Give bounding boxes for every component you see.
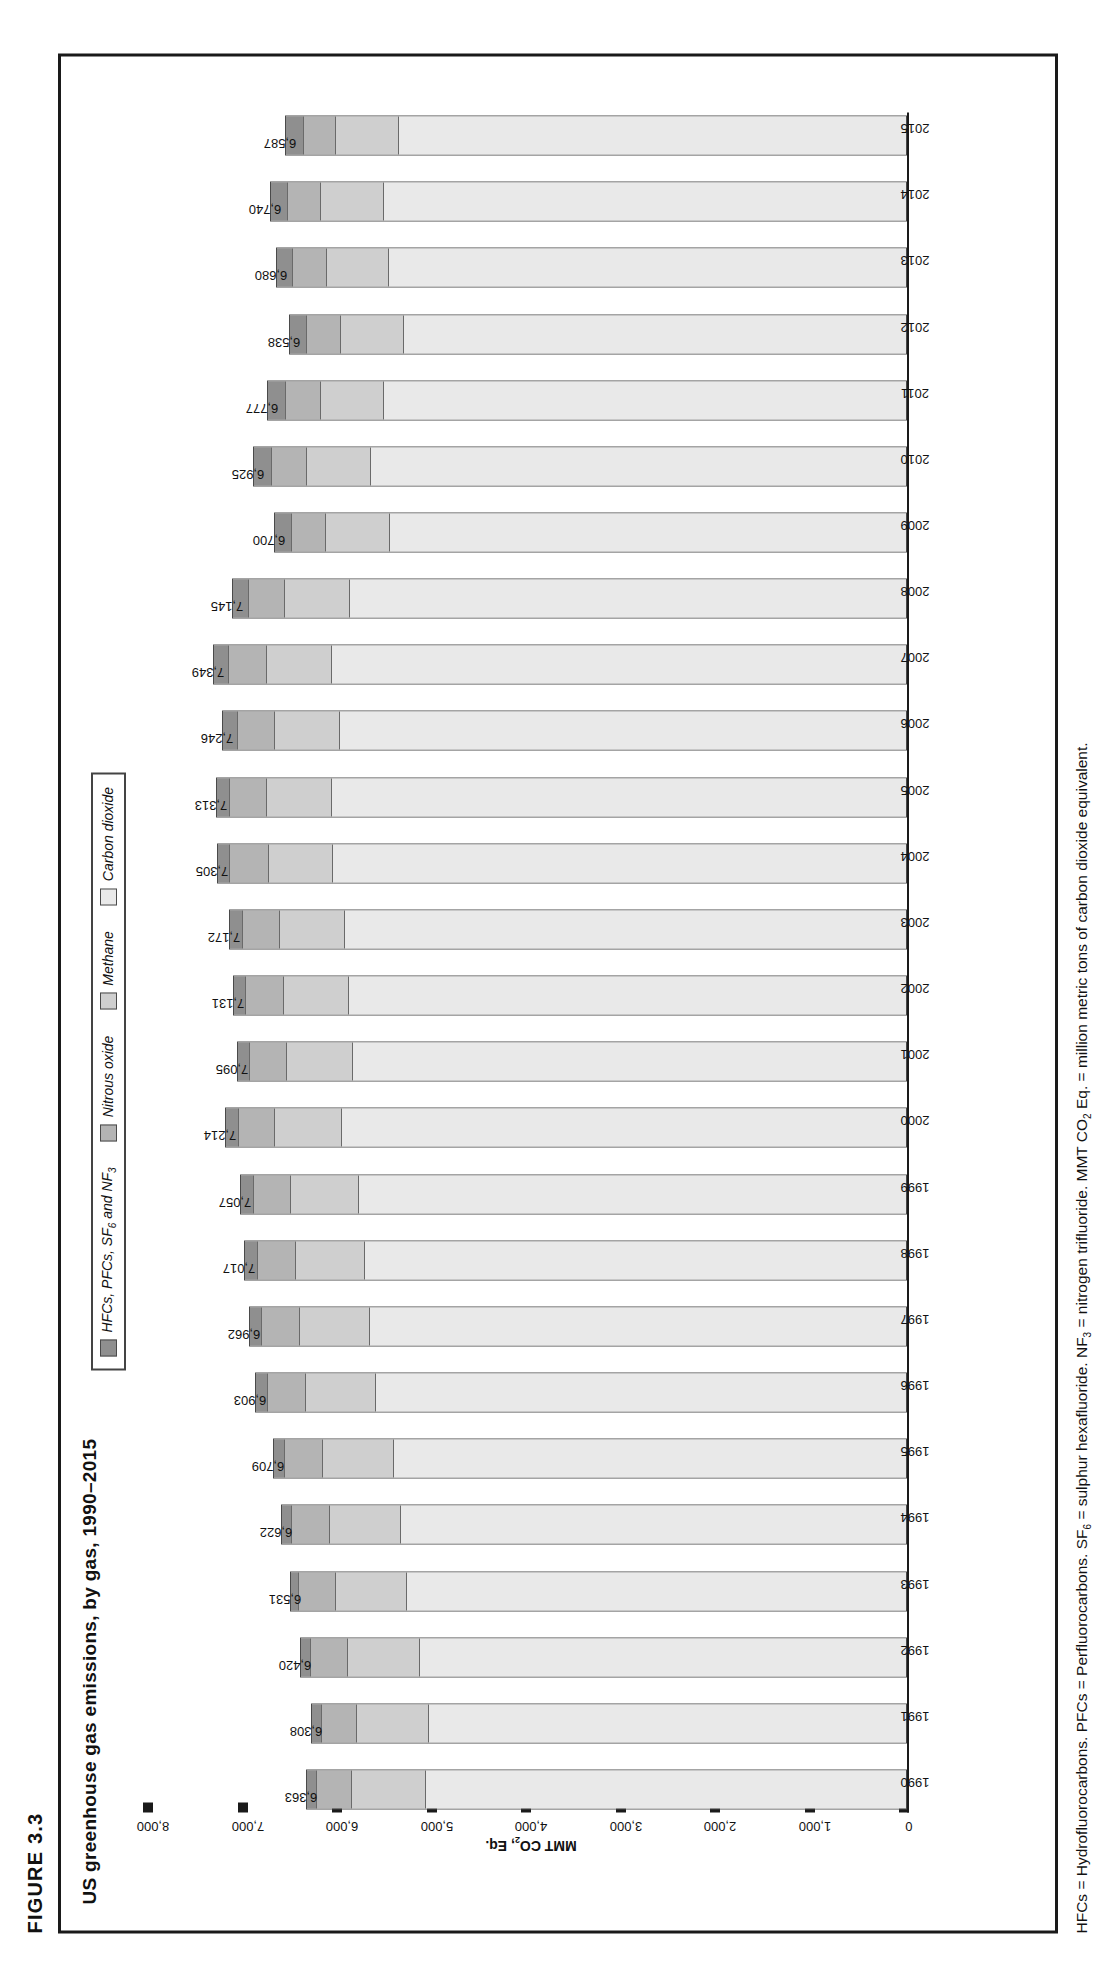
bar-segment-ch4 <box>274 712 339 750</box>
bar-column: 6,6802013 <box>153 244 907 290</box>
y-tick-label: 7,000 <box>231 1819 264 1834</box>
bar-segment-co2 <box>344 910 906 948</box>
bar-segment-n2o <box>248 579 284 617</box>
stacked-bar: 6,709 <box>273 1438 907 1478</box>
bar-column: 6,7772011 <box>153 377 907 423</box>
bar-segment-co2 <box>331 778 907 816</box>
stacked-bar: 7,246 <box>222 711 907 751</box>
bar-segment-ch4 <box>305 1373 375 1411</box>
category-label: 1999 <box>901 1179 930 1194</box>
bar-column: 6,5382012 <box>153 311 907 357</box>
stacked-bar: 7,214 <box>225 1107 907 1147</box>
y-tick-label: 0 <box>905 1819 912 1834</box>
stacked-bar: 7,349 <box>213 644 907 684</box>
bar-column: 6,9621997 <box>153 1303 907 1349</box>
bar-segment-ch4 <box>268 844 332 882</box>
legend-swatch-ch4 <box>100 992 117 1009</box>
bar-value-label: 6,538 <box>268 334 301 349</box>
stacked-bar: 6,925 <box>253 446 907 486</box>
bar-segment-ch4 <box>274 1108 341 1146</box>
bar-column: 7,3492007 <box>153 641 907 687</box>
bar-value-label: 6,308 <box>290 1723 323 1738</box>
stacked-bar: 7,305 <box>217 843 907 883</box>
category-label: 1994 <box>901 1509 930 1524</box>
stacked-bar: 7,057 <box>240 1174 907 1214</box>
legend-label-ch4: Methane <box>100 931 116 985</box>
stacked-bar: 6,587 <box>285 115 907 155</box>
bar-column: 7,1452008 <box>153 575 907 621</box>
y-tick-label: 4,000 <box>515 1819 548 1834</box>
bar-segment-co2 <box>331 645 906 683</box>
bar-segment-ch4 <box>279 910 343 948</box>
bar-value-label: 6,925 <box>231 466 264 481</box>
bar-value-label: 6,777 <box>245 400 278 415</box>
bar-column: 6,9031996 <box>153 1369 907 1415</box>
bar-segment-n2o <box>285 381 320 419</box>
bar-value-label: 6,740 <box>249 201 282 216</box>
y-tick-label: 5,000 <box>420 1819 453 1834</box>
bar-value-label: 6,587 <box>263 135 296 150</box>
figure-page: FIGURE 3.3 US greenhouse gas emissions, … <box>0 0 1096 1969</box>
category-label: 1995 <box>901 1443 930 1458</box>
stacked-bar: 7,017 <box>244 1240 907 1280</box>
bar-segment-ch4 <box>325 513 389 551</box>
bar-segment-n2o <box>253 1175 291 1213</box>
bar-segment-n2o <box>229 778 267 816</box>
bar-segment-co2 <box>383 381 906 419</box>
bar-segment-ch4 <box>295 1241 364 1279</box>
bar-segment-n2o <box>261 1307 299 1345</box>
legend-item-n2o: Nitrous oxide <box>100 1035 117 1141</box>
bar-segment-co2 <box>370 447 906 485</box>
bar-segment-n2o <box>284 1439 322 1477</box>
bar-segment-ch4 <box>290 1175 358 1213</box>
stacked-bar: 6,622 <box>281 1504 907 1544</box>
y-tick-label: 8,000 <box>137 1819 170 1834</box>
bar-segment-n2o <box>271 447 306 485</box>
figure-number: FIGURE 3.3 <box>24 1812 47 1933</box>
bar-series: 6,36319906,30819916,42019926,53119936,62… <box>153 112 907 1812</box>
y-tick-label: 1,000 <box>798 1819 831 1834</box>
bar-value-label: 6,903 <box>233 1392 266 1407</box>
bar-segment-co2 <box>341 1108 906 1146</box>
bar-column: 6,6221994 <box>153 1501 907 1547</box>
bar-segment-n2o <box>291 513 325 551</box>
bar-segment-co2 <box>403 315 907 353</box>
bar-value-label: 7,305 <box>195 863 228 878</box>
bar-segment-ch4 <box>266 778 330 816</box>
bar-segment-co2 <box>388 248 906 286</box>
bar-column: 6,7091995 <box>153 1435 907 1481</box>
bar-segment-ch4 <box>320 182 383 220</box>
bar-segment-ch4 <box>326 248 389 286</box>
bar-segment-ch4 <box>356 1704 428 1742</box>
bar-segment-co2 <box>339 712 906 750</box>
bar-value-label: 6,700 <box>253 532 286 547</box>
legend-swatch-fgas <box>100 1339 117 1356</box>
stacked-bar: 6,538 <box>289 314 907 354</box>
bar-value-label: 7,214 <box>204 1127 237 1142</box>
bar-segment-n2o <box>228 645 265 683</box>
bar-column: 7,1722003 <box>153 906 907 952</box>
bar-segment-ch4 <box>320 381 383 419</box>
legend-label-fgas: HFCs, PFCs, SF6 and NF3 <box>99 1167 118 1332</box>
y-tick-label: 2,000 <box>704 1819 737 1834</box>
bar-column: 6,3081991 <box>153 1700 907 1746</box>
category-label: 2012 <box>901 319 930 334</box>
bar-segment-co2 <box>400 1505 906 1543</box>
bar-segment-n2o <box>229 844 267 882</box>
bar-value-label: 7,246 <box>201 731 234 746</box>
abbreviation-note: HFCs = Hydrofluorocarbons. PFCs = Perflu… <box>1072 53 1094 1933</box>
bar-segment-ch4 <box>284 579 350 617</box>
category-label: 2014 <box>901 186 930 201</box>
bar-segment-ch4 <box>306 447 370 485</box>
figure-notes: HFCs = Hydrofluorocarbons. PFCs = Perflu… <box>1072 53 1096 1933</box>
bar-column: 6,5872015 <box>153 112 907 158</box>
bar-segment-co2 <box>406 1572 906 1610</box>
bar-segment-co2 <box>425 1770 906 1808</box>
bar-value-label: 7,095 <box>215 1061 248 1076</box>
bar-segment-ch4 <box>286 1042 352 1080</box>
stacked-bar: 6,308 <box>311 1703 907 1743</box>
bar-value-label: 6,531 <box>269 1591 302 1606</box>
bar-column: 6,7402014 <box>153 178 907 224</box>
stacked-bar: 7,172 <box>229 909 907 949</box>
category-label: 2015 <box>901 120 930 135</box>
